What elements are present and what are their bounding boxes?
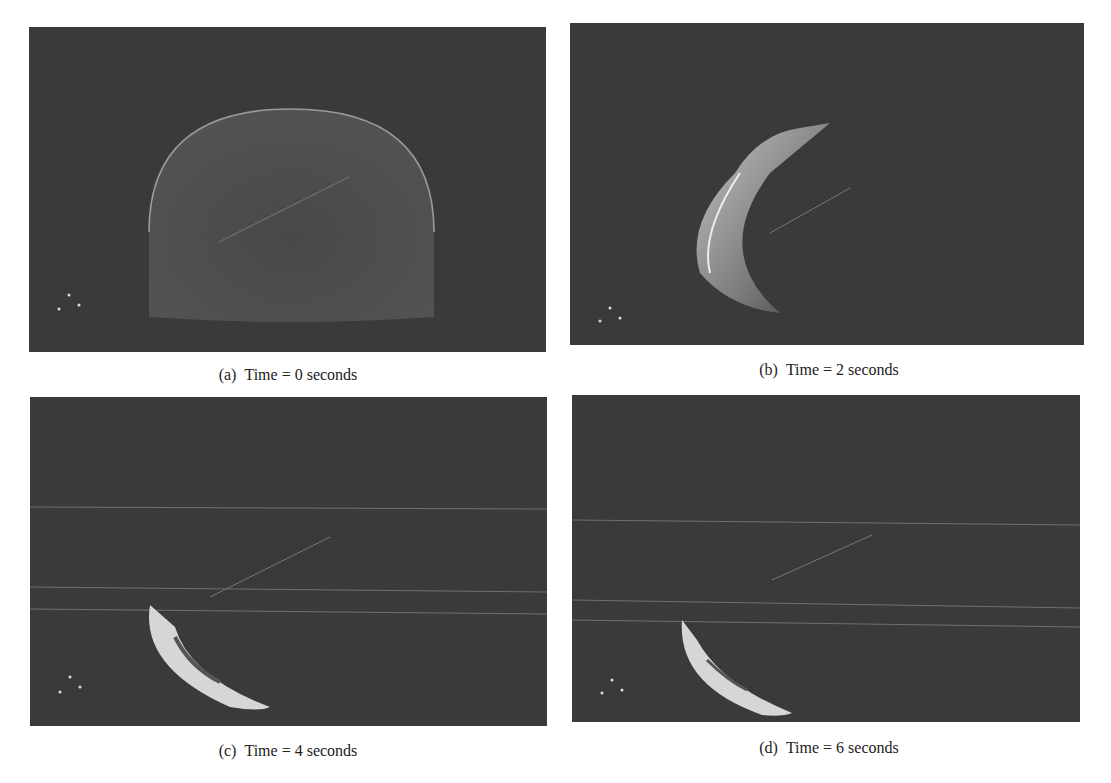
collapsing-dome-graphic <box>570 23 1084 345</box>
panel-label: (d) <box>759 739 778 756</box>
panel-a-caption: (a)Time = 0 seconds <box>188 366 388 384</box>
caption-text: Time = 4 seconds <box>244 742 357 759</box>
panel-b-image <box>570 23 1084 345</box>
axis-triad-icon <box>58 294 81 311</box>
panel-d-caption: (d)Time = 6 seconds <box>729 739 929 757</box>
dome-simulation-graphic <box>29 27 546 352</box>
caption-text: Time = 0 seconds <box>244 366 357 383</box>
caption-text: Time = 2 seconds <box>786 361 899 378</box>
panel-c-caption: (c)Time = 4 seconds <box>188 742 388 760</box>
panel-label: (c) <box>219 742 237 759</box>
panel-d-image <box>572 395 1080 722</box>
scan-line-artifacts <box>30 507 547 614</box>
axis-triad-icon <box>599 307 622 323</box>
caption-text: Time = 6 seconds <box>786 739 899 756</box>
crescent-simulation-graphic <box>30 397 547 726</box>
axis-triad-icon <box>601 679 624 695</box>
panel-label: (b) <box>759 361 778 378</box>
panel-b-caption: (b)Time = 2 seconds <box>729 361 929 379</box>
panel-a-image <box>29 27 546 352</box>
scan-line-artifacts <box>572 520 1080 627</box>
axis-triad-icon <box>59 676 82 694</box>
panel-label: (a) <box>219 366 237 383</box>
panel-c-image <box>30 397 547 726</box>
thin-crescent-simulation-graphic <box>572 395 1080 722</box>
